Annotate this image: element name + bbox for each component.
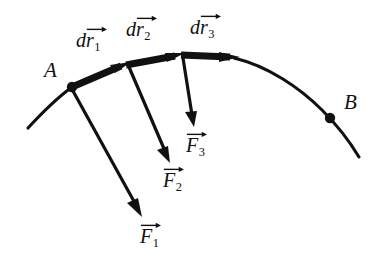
dr3-subscript: 3 xyxy=(208,27,215,41)
dr2-prefix: d xyxy=(126,18,136,40)
dr3-prefix: d xyxy=(190,16,200,38)
F3-symbol-group: F xyxy=(186,133,198,155)
force-vector-F2 xyxy=(129,67,170,163)
dr1-subscript: 1 xyxy=(94,40,101,54)
F3-symbol: F xyxy=(186,134,198,156)
displacement-vector-dr1 xyxy=(72,62,131,87)
dr2-symbol-group: r xyxy=(136,17,144,39)
dr1-prefix: d xyxy=(76,29,86,51)
point-A-dot xyxy=(67,82,77,92)
dr1-symbol-group: r xyxy=(86,28,94,50)
F3-subscript: 3 xyxy=(198,145,205,159)
dr2-symbol: r xyxy=(136,18,144,40)
dr1-symbol: r xyxy=(86,29,94,51)
label-F2: F2 xyxy=(163,168,182,193)
force-vector-F1 xyxy=(73,91,142,217)
label-dr1: dr1 xyxy=(76,28,101,53)
F2-arrowhead xyxy=(157,146,170,163)
label-dr3: dr3 xyxy=(190,15,215,40)
F3-arrowhead xyxy=(185,111,197,127)
trajectory-curve-head xyxy=(234,58,359,157)
displacement-vector-dr2 xyxy=(126,53,185,65)
F2-subscript: 2 xyxy=(175,180,182,194)
trajectory-curve-tail xyxy=(28,87,72,128)
F1-symbol-group: F xyxy=(140,224,152,246)
F1-arrowhead xyxy=(127,198,142,217)
force-vector-F3 xyxy=(183,58,197,127)
F1-symbol: F xyxy=(140,225,152,247)
F2-symbol-group: F xyxy=(163,168,175,190)
dr3-symbol-group: r xyxy=(200,15,208,37)
point-label-A: A xyxy=(44,60,57,81)
F2-symbol: F xyxy=(163,169,175,191)
label-F3: F3 xyxy=(186,133,205,158)
point-label-B: B xyxy=(344,92,357,113)
label-dr2: dr2 xyxy=(126,17,151,42)
physics-vector-diagram: A B dr1 dr2 dr3 F1 F2 F3 xyxy=(0,0,378,268)
displacement-vector-dr3 xyxy=(181,52,240,62)
F1-shaft xyxy=(73,91,136,205)
F1-subscript: 1 xyxy=(152,236,159,250)
dr2-subscript: 2 xyxy=(144,29,151,43)
F2-shaft xyxy=(129,67,165,151)
F3-shaft xyxy=(183,58,192,115)
point-B-dot xyxy=(325,113,335,123)
dr3-symbol: r xyxy=(200,16,208,38)
label-F1: F1 xyxy=(140,224,159,249)
